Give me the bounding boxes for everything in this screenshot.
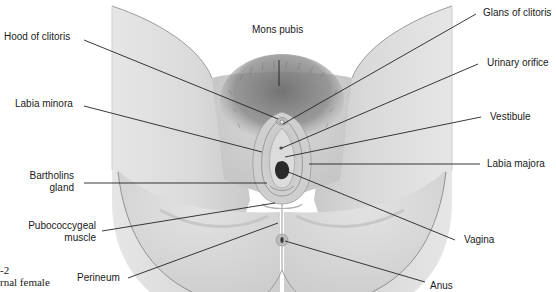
anatomy-illustration <box>0 0 556 292</box>
label-pubococcygeal-muscle-line2: muscle <box>16 232 96 244</box>
label-perineum: Perineum <box>77 272 120 284</box>
label-urinary-orifice: Urinary orifice <box>487 57 549 69</box>
label-glans-of-clitoris: Glans of clitoris <box>483 7 551 19</box>
label-vagina: Vagina <box>464 234 494 246</box>
label-hood-of-clitoris: Hood of clitoris <box>4 31 70 43</box>
figure-caption: -2 rnal female <box>0 264 50 288</box>
label-vestibule: Vestibule <box>490 111 531 123</box>
figure-caption-text: rnal female <box>0 276 50 288</box>
label-bartholins-gland: Bartholins gland <box>26 170 74 194</box>
label-pubococcygeal-muscle: Pubococcygeal muscle <box>16 220 96 244</box>
label-bartholins-gland-line1: Bartholins <box>26 170 74 182</box>
label-labia-majora: Labia majora <box>487 158 545 170</box>
anatomy-diagram: Hood of clitoris Mons pubis Glans of cli… <box>0 0 556 292</box>
label-bartholins-gland-line2: gland <box>26 182 74 194</box>
label-labia-minora: Labia minora <box>15 98 73 110</box>
figure-caption-number: -2 <box>0 264 50 276</box>
label-anus: Anus <box>430 280 453 292</box>
label-pubococcygeal-muscle-line1: Pubococcygeal <box>16 220 96 232</box>
label-mons-pubis: Mons pubis <box>252 24 303 36</box>
